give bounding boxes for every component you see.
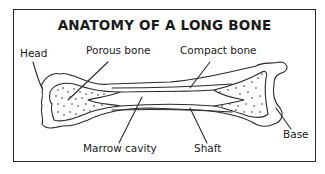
marrow-cavity-top xyxy=(120,90,214,92)
label-compact-bone: Compact bone xyxy=(180,44,257,56)
label-base: Base xyxy=(283,128,309,140)
label-head: Head xyxy=(20,47,47,59)
leader-marrow-cavity xyxy=(119,97,142,143)
leader-head xyxy=(33,62,42,88)
bone-outer-outline xyxy=(41,62,287,128)
label-shaft: Shaft xyxy=(194,142,221,154)
label-porous-bone: Porous bone xyxy=(86,44,151,56)
leader-shaft xyxy=(190,108,207,143)
porous-region-left xyxy=(50,83,121,121)
porous-region-right xyxy=(214,71,268,117)
leader-base xyxy=(276,108,291,129)
leader-porous-bone xyxy=(68,62,108,100)
compact-inner-top xyxy=(112,84,232,88)
label-marrow-cavity: Marrow cavity xyxy=(83,142,157,154)
leader-compact-bone xyxy=(190,62,210,88)
long-bone-illustration xyxy=(0,0,325,174)
marrow-cavity-bottom xyxy=(120,105,214,107)
